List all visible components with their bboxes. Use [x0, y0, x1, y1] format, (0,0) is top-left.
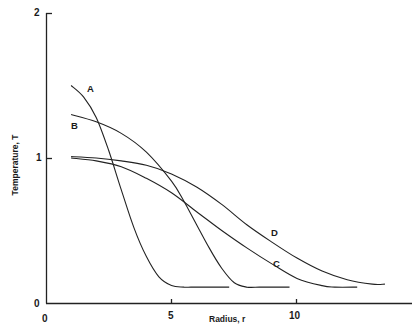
- x-axis-title: Radius, r: [209, 314, 245, 324]
- curve-d: [71, 157, 385, 285]
- y-tick-label-1: 1: [36, 153, 42, 163]
- curve-label-d: D: [271, 227, 278, 238]
- x-tick-label-5: 5: [168, 311, 174, 321]
- curve-label-b: B: [71, 120, 78, 131]
- curve-b: [71, 115, 289, 288]
- x-tick-label-10: 10: [289, 311, 300, 321]
- y-tick-label-0: 0: [34, 299, 40, 309]
- x-tick-label-0: 0: [42, 314, 48, 324]
- chart-canvas: [0, 0, 419, 334]
- y-axis-title: Temperature, T: [10, 133, 20, 197]
- curve-label-a: A: [87, 83, 94, 94]
- y-tick-label-2: 2: [34, 8, 40, 18]
- curve-a: [71, 86, 229, 288]
- curve-label-c: C: [273, 258, 280, 269]
